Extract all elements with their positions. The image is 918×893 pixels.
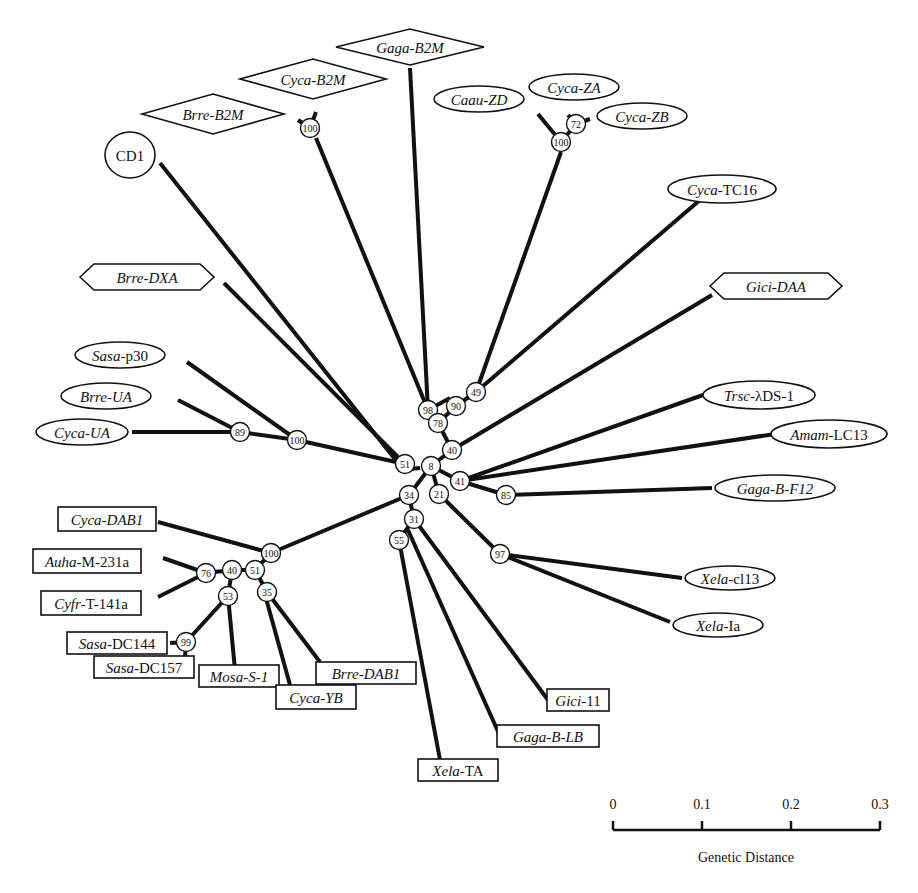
bootstrap-value: 76 (201, 568, 211, 579)
leaf-xela_ia: Xela-Ia (673, 613, 763, 637)
branch (452, 295, 712, 450)
branch (178, 400, 240, 432)
bootstrap-node: 21 (430, 485, 449, 504)
bootstrap-node: 100 (288, 431, 307, 450)
bootstrap-value: 40 (227, 565, 237, 576)
leaf-cyfr_t141a: Cyfr-T-141a (41, 591, 141, 615)
scale-bar-ticks: 00.10.20.3 (610, 797, 889, 830)
bootstrap-value: 90 (451, 401, 461, 412)
leaf-brre_ua: Brre-UA (61, 383, 151, 409)
bootstrap-node: 8 (422, 457, 441, 476)
bootstrap-value: 40 (447, 445, 457, 456)
leaf-label: Xela-cl13 (700, 571, 759, 587)
leaf-xela_ta: Xela-TA (418, 759, 498, 781)
bootstrap-value: 34 (404, 490, 414, 501)
bootstrap-node: 51 (396, 455, 415, 474)
leaf-genus: Sasa (106, 660, 134, 676)
branch (316, 138, 428, 410)
leaf-genus: Brre-DXA (116, 270, 178, 286)
leaf-genus: Cyca-DAB1 (71, 512, 143, 528)
leaf-gaga_bf12: Gaga-B-F12 (715, 475, 835, 501)
scale-bar: 00.10.20.3 Genetic Distance (610, 797, 889, 865)
leaf-cyca_za: Cyca-ZA (529, 74, 619, 100)
scale-tick-label: 0 (610, 797, 617, 812)
leaf-gene: -p30 (120, 348, 148, 364)
leaf-xela_cl13: Xela-cl13 (685, 566, 775, 590)
leaf-sasa_dc157: Sasa-DC157 (94, 656, 194, 678)
bootstrap-value: 49 (471, 387, 481, 398)
leaf-genus: Trsc (724, 388, 750, 404)
leaf-label: Xela-TA (431, 763, 483, 779)
leaf-genus: Xela (431, 763, 460, 779)
leaf-trsc_lds1: Trsc-λDS-1 (703, 381, 815, 409)
phylogenetic-tree: 1009810072499078408511008941852197343155… (0, 0, 918, 893)
bootstrap-value: 98 (423, 405, 433, 416)
bootstrap-value: 99 (181, 637, 191, 648)
bootstrap-node: 40 (443, 441, 462, 460)
branch (399, 540, 440, 760)
leaf-label: Cyca-DAB1 (71, 512, 143, 528)
bootstrap-value: 51 (400, 459, 410, 470)
leaf-gene: -M-231a (77, 554, 130, 570)
bootstrap-node: 72 (567, 115, 586, 134)
leaf-label: Xela-Ia (695, 618, 740, 634)
leaf-genus: Gici (555, 693, 581, 709)
leaf-label: Sasa-DC144 (79, 636, 156, 652)
bootstrap-node: 85 (497, 486, 516, 505)
bootstrap-value: 100 (264, 548, 279, 559)
branch (460, 395, 703, 481)
bootstrap-value: 100 (303, 123, 318, 134)
leaf-genus: Cyca-B2M (281, 72, 347, 88)
leaf-cyca_ua: Cyca-UA (36, 419, 128, 445)
bootstrap-value: 8 (429, 461, 434, 472)
bootstrap-node: 100 (262, 544, 281, 563)
bootstrap-node: 35 (258, 583, 277, 602)
bootstrap-node: 41 (451, 472, 470, 491)
leaf-label: Gaga-B2M (376, 40, 445, 56)
leaf-gene: -11 (581, 693, 600, 709)
bootstrap-node: 31 (405, 510, 424, 529)
leaf-label: CD1 (116, 148, 144, 164)
leaf-label: Cyca-ZB (615, 109, 668, 125)
leaf-genus: Sasa (92, 348, 120, 364)
leaf-label: Gici-DAA (746, 279, 807, 295)
leaf-label: Trsc-λDS-1 (724, 388, 794, 404)
leaf-auha_m231a: Auha-M-231a (33, 549, 141, 573)
leaf-gene: -cl13 (728, 571, 759, 587)
leaf-label: Brre-B2M (182, 107, 245, 123)
leaf-genus: Brre-UA (80, 389, 133, 405)
leaf-label: Cyca-UA (54, 425, 111, 441)
leaf-genus: Sasa (79, 636, 107, 652)
bootstrap-nodes: 1009810072499078408511008941852197343155… (177, 115, 586, 652)
bootstrap-value: 35 (262, 587, 272, 598)
bootstrap-node: 100 (552, 133, 571, 152)
leaf-cyca_yb: Cyca-YB (276, 685, 356, 709)
bootstrap-node: 97 (491, 545, 510, 564)
branch (414, 519, 548, 700)
leaf-label: Brre-DXA (116, 270, 178, 286)
leaf-label: Amam-LC13 (789, 427, 868, 443)
bootstrap-value: 100 (554, 137, 569, 148)
leaf-amam_lc13: Amam-LC13 (771, 420, 887, 448)
branch (439, 494, 500, 554)
scale-bar-label: Genetic Distance (698, 850, 794, 865)
leaf-genus: Xela (700, 571, 729, 587)
leaf-gaga_b2m: Gaga-B2M (336, 29, 484, 65)
branch (506, 488, 712, 495)
leaf-genus: Brre-DAB1 (332, 666, 401, 682)
leaf-genus: Amam (789, 427, 828, 443)
leaf-label: Caau-ZD (451, 92, 508, 108)
leaf-label: Brre-UA (80, 389, 133, 405)
leaf-brre_dxa: Brre-DXA (80, 264, 214, 290)
leaf-gene: -DC144 (107, 636, 156, 652)
branch (158, 522, 271, 553)
leaf-genus: Caau-ZD (451, 92, 508, 108)
bootstrap-value: 100 (290, 435, 305, 446)
leaf-gene: -λDS-1 (750, 388, 794, 404)
leaf-sasa_p30: Sasa-p30 (75, 342, 165, 368)
bootstrap-node: 99 (177, 633, 196, 652)
leaf-cd1: CD1 (105, 132, 155, 178)
leaf-gene: -LC13 (829, 427, 868, 443)
leaf-brre_dab1: Brre-DAB1 (316, 662, 416, 684)
branch (460, 434, 775, 481)
